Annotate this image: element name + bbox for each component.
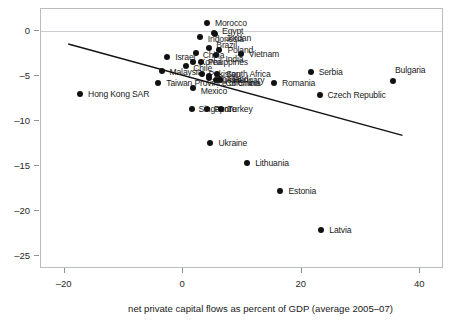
x-axis-tick-label: 0: [180, 278, 185, 289]
x-axis-title: net private capital flows as percent of …: [0, 303, 451, 314]
data-point: [308, 69, 314, 75]
y-axis-tick-mark: [34, 255, 39, 256]
y-axis-tick-label: –20: [0, 204, 30, 215]
scatter-chart: 0–5–10–15–20–25 MoroccoEgyptIndonesiaJor…: [0, 0, 451, 324]
y-axis-tick-label: –25: [0, 249, 30, 260]
y-axis-tick-mark: [34, 30, 39, 31]
y-axis-tick-mark: [34, 210, 39, 211]
y-axis-tick-label: –10: [0, 115, 30, 126]
data-point-label: Latvia: [329, 226, 351, 235]
y-axis-tick-label: –5: [0, 70, 30, 81]
x-axis-tick-label: 40: [414, 278, 425, 289]
data-point-label: Ukraine: [218, 138, 247, 147]
data-point: [390, 78, 396, 84]
data-point: [197, 34, 203, 40]
x-axis-tick-mark: [301, 268, 302, 273]
data-point: [189, 106, 195, 112]
data-point-label: Estonia: [288, 187, 316, 196]
x-axis-tick-mark: [182, 268, 183, 273]
data-point-label: Czech Republic: [328, 91, 386, 100]
y-axis-tick-mark: [34, 165, 39, 166]
data-point-label: Turkey: [228, 105, 253, 114]
data-point-label: Vietnam: [249, 49, 279, 58]
data-point: [317, 92, 323, 98]
data-point-label: Mexico: [201, 86, 227, 95]
y-axis-tick-mark: [34, 75, 39, 76]
x-axis-title-text: net private capital flows as percent of …: [58, 303, 393, 314]
data-point-label: Romania: [282, 79, 315, 88]
data-point: [190, 85, 196, 91]
x-axis-tick-mark: [64, 268, 65, 273]
data-point-label: Lithuania: [255, 159, 289, 168]
data-point-label: Hong Kong SAR: [88, 90, 149, 99]
data-point-label: Serbia: [319, 67, 343, 76]
x-axis-tick-label: 20: [295, 278, 306, 289]
data-point-label: Malaysia: [169, 67, 202, 76]
x-axis-tick-mark: [419, 268, 420, 273]
plot-area: MoroccoEgyptIndonesiaJordanBrazilPolandV…: [40, 8, 443, 268]
data-point: [212, 31, 218, 37]
x-axis-tick-label: –20: [56, 278, 72, 289]
data-point: [218, 106, 224, 112]
data-point-label: Bulgaria: [395, 65, 425, 74]
y-axis-tick-mark: [34, 120, 39, 121]
y-axis-tick-label: 0: [0, 25, 30, 36]
data-point: [164, 54, 170, 60]
data-point: [204, 106, 210, 112]
y-axis-tick-label: –15: [0, 159, 30, 170]
